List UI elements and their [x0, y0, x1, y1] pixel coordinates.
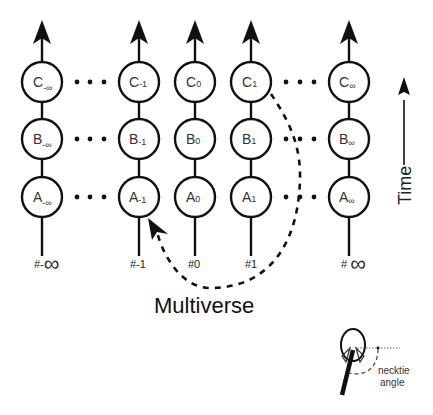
column-label-inf: # ∞	[341, 251, 366, 276]
column-label-neg-inf: #-∞	[34, 251, 59, 276]
dashed-multiverse-arrow	[148, 94, 300, 288]
node-c-neg-1: C-1	[119, 62, 159, 102]
multiverse-diagram: C-∞ B-∞ A-∞ #-∞ C-1 B-1 A-1 #-1	[0, 0, 433, 415]
node-c-1: C1	[231, 62, 271, 102]
column-label-1: #1	[245, 258, 257, 270]
node-b-inf: B∞	[329, 119, 369, 159]
node-a-0: A0	[175, 177, 215, 217]
node-a-neg-1: A-1	[119, 177, 159, 217]
column-neg-infinity: C-∞ B-∞ A-∞ #-∞	[22, 20, 62, 276]
time-axis: Time	[395, 77, 415, 205]
necktie-figure-icon: necktie angle	[341, 329, 410, 395]
node-b-1: B1	[231, 119, 271, 159]
node-c-inf: C∞	[329, 62, 369, 102]
multiverse-label: Multiverse	[154, 293, 254, 318]
node-b-neg-1: B-1	[119, 119, 159, 159]
necktie-label: necktie	[378, 365, 410, 376]
column-label-0: #0	[188, 258, 200, 270]
node-a-1: A1	[231, 177, 271, 217]
node-b-0: B0	[175, 119, 215, 159]
column-infinity: C∞ B∞ A∞ # ∞	[329, 20, 369, 276]
column-0: C0 B0 A0 #0	[175, 20, 215, 270]
node-c-0: C0	[175, 62, 215, 102]
ellipsis-left	[75, 80, 107, 200]
angle-label: angle	[380, 377, 405, 388]
column-1: C1 B1 A1 #1	[231, 20, 271, 270]
time-label: Time	[395, 166, 415, 205]
node-a-neg-inf: A-∞	[22, 177, 62, 217]
time-arrow-icon	[398, 77, 410, 95]
node-a-inf: A∞	[329, 177, 369, 217]
node-b-neg-inf: B-∞	[22, 119, 62, 159]
column-label-neg-1: #-1	[130, 258, 146, 270]
node-c-neg-inf: C-∞	[22, 62, 62, 102]
ellipsis-right	[284, 80, 317, 200]
